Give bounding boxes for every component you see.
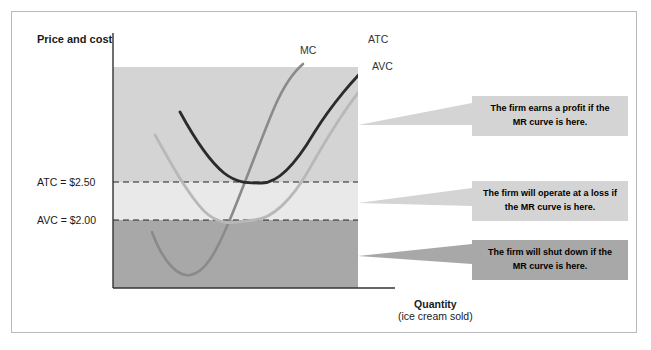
y-axis-title: Price and cost bbox=[37, 33, 112, 46]
callout-shutdown-line2: MR curve is here. bbox=[513, 260, 588, 274]
profit-region-band bbox=[113, 67, 358, 182]
callout-shutdown-line1: The firm will shut down if the bbox=[488, 246, 612, 260]
callout-loss-line2: the MR curve is here. bbox=[505, 201, 596, 215]
shutdown-region-band bbox=[113, 220, 358, 288]
callout-profit-line2: MR curve is here. bbox=[513, 116, 588, 130]
callout-loss-pointer bbox=[358, 188, 472, 206]
mc-curve-label: MC bbox=[300, 44, 316, 56]
atc-curve-label: ATC bbox=[368, 33, 388, 45]
callout-profit-line1: The firm earns a profit if the bbox=[490, 102, 609, 116]
callout-shutdown-pointer bbox=[358, 244, 472, 264]
avc-curve-label: AVC bbox=[372, 60, 393, 72]
callout-loss: The firm will operate at a loss if the M… bbox=[472, 181, 628, 221]
callout-loss-line1: The firm will operate at a loss if bbox=[483, 187, 617, 201]
y-tick-label-avc: AVC = $2.00 bbox=[37, 214, 96, 226]
callout-profit-pointer bbox=[358, 103, 472, 125]
y-tick-label-atc: ATC = $2.50 bbox=[37, 176, 95, 188]
loss-region-band bbox=[113, 182, 358, 220]
figure-page: Price and cost Quantity (ice cream sold)… bbox=[0, 0, 651, 350]
plot-area bbox=[0, 0, 651, 350]
x-axis-title: Quantity (ice cream sold) bbox=[398, 298, 473, 322]
x-axis-title-line2: (ice cream sold) bbox=[398, 310, 473, 322]
callout-profit: The firm earns a profit if the MR curve … bbox=[472, 96, 628, 136]
x-axis-title-line1: Quantity bbox=[414, 298, 457, 310]
callout-shutdown: The firm will shut down if the MR curve … bbox=[472, 240, 628, 280]
